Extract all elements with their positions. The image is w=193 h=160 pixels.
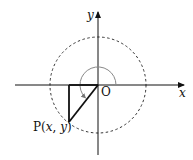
origin-label: O	[101, 86, 111, 98]
point-x: x	[46, 120, 53, 134]
x-axis-label: x	[179, 87, 186, 99]
y-axis-label: y	[87, 9, 94, 21]
point-y: y	[60, 120, 67, 134]
point-suffix: )	[67, 120, 72, 134]
point-prefix: P(	[33, 120, 46, 134]
radius-op	[69, 85, 98, 122]
diagram-canvas	[0, 0, 193, 160]
point-p-label: P(x, y)	[33, 121, 72, 133]
